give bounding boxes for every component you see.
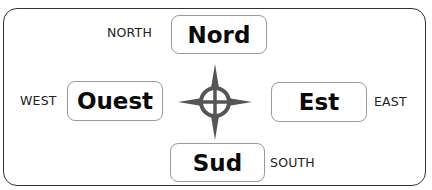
west-box: Ouest bbox=[67, 81, 163, 121]
east-box: Est bbox=[271, 82, 367, 122]
west-english-label: WEST bbox=[20, 93, 57, 108]
south-box: Sud bbox=[170, 143, 265, 182]
compass-rose-icon bbox=[178, 64, 252, 140]
south-english-label: SOUTH bbox=[270, 155, 315, 170]
north-box: Nord bbox=[171, 15, 267, 54]
north-english-label: NORTH bbox=[107, 25, 152, 40]
east-english-label: EAST bbox=[374, 94, 407, 109]
